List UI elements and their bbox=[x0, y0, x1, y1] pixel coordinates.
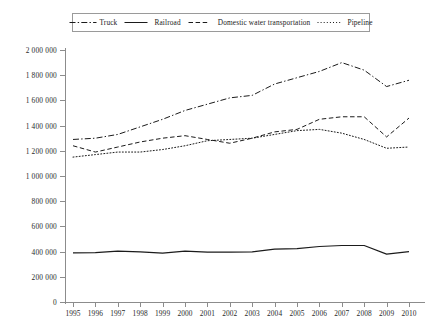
x-axis-tick bbox=[342, 302, 343, 307]
series-line-railroad bbox=[73, 246, 409, 255]
x-axis-tick-label: 2008 bbox=[357, 309, 372, 318]
y-axis-tick-label: 1 000 000 bbox=[26, 172, 57, 181]
y-axis-tick bbox=[60, 252, 65, 253]
x-axis-tick bbox=[95, 302, 96, 307]
x-axis-tick-label: 2007 bbox=[334, 309, 349, 318]
y-axis-tick-label: 200 000 bbox=[32, 272, 57, 281]
y-axis-tick-label: 0 bbox=[53, 298, 57, 307]
y-axis-tick bbox=[60, 126, 65, 127]
series-line-pipeline bbox=[73, 129, 409, 157]
x-axis-tick-label: 2005 bbox=[289, 309, 304, 318]
series-line-truck bbox=[73, 63, 409, 140]
y-axis-tick-label: 2 000 000 bbox=[26, 46, 57, 55]
x-axis-tick bbox=[409, 302, 410, 307]
x-axis-tick bbox=[364, 302, 365, 307]
y-axis-tick-label: 1 400 000 bbox=[26, 121, 57, 130]
series-line-domestic-water-transportation bbox=[73, 117, 409, 152]
x-axis-tick bbox=[387, 302, 388, 307]
x-axis-tick-label: 2001 bbox=[200, 309, 215, 318]
y-axis-tick bbox=[60, 226, 65, 227]
x-axis-tick-label: 2000 bbox=[177, 309, 192, 318]
x-axis-tick-label: 2002 bbox=[222, 309, 237, 318]
x-axis-tick-label: 2009 bbox=[379, 309, 394, 318]
y-axis-tick bbox=[60, 201, 65, 202]
x-axis-tick bbox=[230, 302, 231, 307]
x-axis-line bbox=[65, 302, 425, 303]
x-axis-tick bbox=[252, 302, 253, 307]
y-axis-tick bbox=[60, 302, 65, 303]
dash-dot-line-icon bbox=[69, 19, 95, 26]
x-axis-tick-label: 1995 bbox=[65, 309, 80, 318]
legend-label: Railroad bbox=[154, 19, 180, 26]
y-axis-tick-label: 400 000 bbox=[32, 247, 57, 256]
dotted-line-icon bbox=[317, 19, 343, 26]
x-axis-tick bbox=[118, 302, 119, 307]
x-axis-tick bbox=[207, 302, 208, 307]
legend-item-pipeline[interactable]: Pipeline bbox=[317, 19, 372, 26]
line-chart: TruckRailroadDomestic water transportati… bbox=[0, 0, 440, 331]
x-axis-tick-label: 1996 bbox=[88, 309, 103, 318]
legend-label: Truck bbox=[99, 19, 117, 26]
x-axis-tick bbox=[185, 302, 186, 307]
x-axis-tick-label: 2010 bbox=[401, 309, 416, 318]
legend-label: Pipeline bbox=[347, 19, 372, 26]
y-axis-tick bbox=[60, 277, 65, 278]
solid-line-icon bbox=[124, 19, 150, 26]
x-axis-tick bbox=[73, 302, 74, 307]
legend-label: Domestic water transportation bbox=[218, 19, 311, 26]
x-axis-tick-label: 1997 bbox=[110, 309, 125, 318]
legend-item-truck[interactable]: Truck bbox=[69, 19, 117, 26]
legend-item-railroad[interactable]: Railroad bbox=[124, 19, 180, 26]
chart-legend: TruckRailroadDomestic water transportati… bbox=[72, 13, 370, 32]
series-group bbox=[65, 50, 423, 302]
y-axis-tick bbox=[60, 151, 65, 152]
y-axis-tick bbox=[60, 176, 65, 177]
x-axis-tick-label: 2004 bbox=[267, 309, 282, 318]
y-axis-tick-label: 600 000 bbox=[32, 222, 57, 231]
y-axis-tick-label: 800 000 bbox=[32, 197, 57, 206]
y-axis-tick-label: 1 800 000 bbox=[26, 71, 57, 80]
y-axis-tick bbox=[60, 75, 65, 76]
x-axis-tick bbox=[140, 302, 141, 307]
y-axis-tick-label: 1 200 000 bbox=[26, 146, 57, 155]
dashed-line-icon bbox=[188, 19, 214, 26]
x-axis-tick bbox=[275, 302, 276, 307]
x-axis-tick bbox=[163, 302, 164, 307]
y-axis-tick-label: 1 600 000 bbox=[26, 96, 57, 105]
x-axis-tick bbox=[319, 302, 320, 307]
x-axis-tick bbox=[297, 302, 298, 307]
x-axis-tick-label: 1999 bbox=[155, 309, 170, 318]
x-axis-tick-label: 1998 bbox=[133, 309, 148, 318]
y-axis-tick bbox=[60, 100, 65, 101]
legend-item-domestic-water-transportation[interactable]: Domestic water transportation bbox=[188, 19, 311, 26]
x-axis-tick-label: 2003 bbox=[245, 309, 260, 318]
y-axis-tick bbox=[60, 50, 65, 51]
x-axis-tick-label: 2006 bbox=[312, 309, 327, 318]
plot-area: 0200 000400 000600 000800 0001 000 0001 … bbox=[65, 50, 423, 302]
